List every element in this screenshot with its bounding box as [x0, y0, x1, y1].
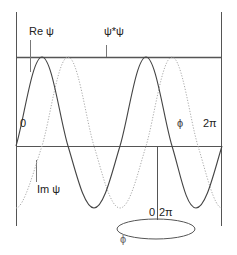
- ring-two-pi-label: 2π: [159, 207, 173, 218]
- ring-ellipse: [117, 219, 195, 239]
- two-pi-axis-label: 2π: [203, 118, 217, 129]
- ring-zero-label: 0: [149, 207, 155, 218]
- wavefunction-diagram: [0, 0, 237, 255]
- re-psi-label: Re ψ: [29, 26, 54, 37]
- ring-phi-label: ϕ: [120, 234, 126, 245]
- zero-axis-label: 0: [20, 118, 26, 129]
- im-psi-label: Im ψ: [37, 184, 60, 195]
- phi-axis-label: ϕ: [177, 118, 183, 129]
- psi-star-psi-label: ψ*ψ: [104, 26, 124, 37]
